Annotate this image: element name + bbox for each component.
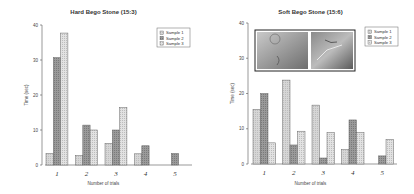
x-tick-label: 3	[113, 170, 118, 178]
bar	[253, 109, 261, 164]
bar	[83, 125, 90, 165]
bar	[312, 105, 320, 164]
y-axis-label: Time (sec)	[230, 82, 235, 104]
bar	[105, 143, 112, 165]
x-axis-label: Number of trials	[0, 181, 207, 186]
legend-entry: Sample 2	[166, 36, 184, 41]
x-tick-label: 2	[85, 170, 89, 178]
legend-entry: Sample 1	[374, 29, 392, 34]
y-tick-label: 20	[239, 91, 245, 96]
x-tick-label: 3	[321, 169, 326, 177]
y-tick-label: 0	[35, 163, 38, 168]
bar	[53, 58, 60, 165]
bar	[76, 156, 83, 165]
soft-stone-plot: 010203040Time (sec)12345Sample 1Sample 2…	[207, 0, 414, 194]
y-tick-label: 30	[239, 56, 245, 61]
x-tick-label: 5	[381, 169, 385, 177]
legend-entry: Sample 3	[166, 41, 184, 46]
hard-stone-plot: 010203040Time (sec)12345Sample 1Sample 2…	[0, 0, 207, 194]
bar	[283, 80, 291, 164]
bar	[142, 146, 149, 165]
bar	[112, 130, 119, 165]
x-tick-label: 2	[292, 169, 296, 177]
bar	[357, 133, 365, 164]
y-tick-label: 10	[33, 128, 39, 133]
bar	[386, 139, 394, 164]
bar	[290, 145, 298, 164]
bar	[379, 156, 387, 164]
soft-stone-chart: Soft Bego Stone (15:6) 010203040Time (se…	[207, 0, 414, 194]
y-tick-label: 40	[33, 23, 39, 28]
y-tick-label: 40	[239, 21, 245, 26]
hard-stone-chart: Hard Bego Stone (15:3) 010203040Time (se…	[0, 0, 207, 194]
y-tick-label: 20	[33, 93, 39, 98]
bar	[268, 143, 276, 164]
x-tick-label: 4	[351, 169, 355, 177]
x-tick-label: 1	[55, 170, 59, 178]
bar	[46, 153, 53, 165]
bar	[135, 154, 142, 165]
x-axis-label: Number of trials	[207, 181, 414, 186]
legend-entry: Sample 3	[374, 40, 392, 45]
bar	[171, 153, 178, 165]
x-tick-label: 4	[144, 170, 148, 178]
y-tick-label: 10	[239, 126, 245, 131]
bar	[61, 33, 68, 165]
bar	[90, 130, 97, 165]
y-tick-label: 30	[33, 58, 39, 63]
y-tick-label: 0	[241, 162, 244, 167]
bar	[298, 131, 306, 164]
legend-entry: Sample 1	[166, 30, 184, 35]
y-axis-label: Time (sec)	[24, 84, 29, 106]
bar	[342, 150, 350, 164]
bar	[261, 94, 269, 165]
x-tick-label: 1	[263, 169, 267, 177]
bar	[320, 158, 328, 164]
inset-photographs	[255, 30, 355, 71]
legend-entry: Sample 2	[374, 35, 392, 40]
bar	[349, 120, 357, 164]
bar	[120, 108, 127, 165]
x-tick-label: 5	[173, 170, 177, 178]
bar	[327, 133, 335, 164]
